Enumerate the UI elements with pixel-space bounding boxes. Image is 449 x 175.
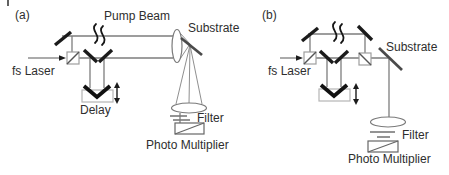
filter-label-a: Filter [197,111,224,125]
beam-break-squiggle-1-icon [94,24,98,43]
figure-canvas: (a) Pump Beam [0,0,449,175]
delay-arrow-up-head-icon [353,83,359,89]
delay-label: Delay [80,103,111,117]
input-beam-arrowhead-icon [296,55,303,61]
panel-a-letter: (a) [15,8,30,22]
optical-schematic: (a) Pump Beam [0,0,449,175]
panel-b: (b) Substrate fs Laser [262,8,438,166]
focusing-lens-icon [172,30,182,63]
delay-arrow-up-head-icon [114,82,120,88]
delay-retroreflector-icon [84,86,110,97]
delay-retroreflector-icon [321,85,347,96]
fs-laser-label-a: fs Laser [12,64,55,78]
steering-mirror-icon [55,32,71,45]
panel-b-letter: (b) [262,8,277,22]
substrate-label-b: Substrate [386,40,438,54]
collection-lens-icon [371,117,406,127]
delay-arrow-down-head-icon [353,99,359,105]
substrate-label-a: Substrate [188,21,240,35]
fs-laser-label-b: fs Laser [268,64,311,78]
panel-a: (a) Pump Beam [12,8,240,152]
beam-break-squiggle-1-icon [333,22,337,41]
delay-arrow-down-head-icon [114,98,120,104]
photo-multiplier-label-a: Photo Multiplier [146,138,229,152]
photo-multiplier-label-b: Photo Multiplier [348,152,431,166]
scatter-ray-center [189,45,190,104]
input-beam-arrowhead-icon [59,55,66,61]
delay-fold-mirror-right-icon [99,50,112,62]
filter-label-b: Filter [402,128,429,142]
pump-beam-label: Pump Beam [104,9,170,23]
